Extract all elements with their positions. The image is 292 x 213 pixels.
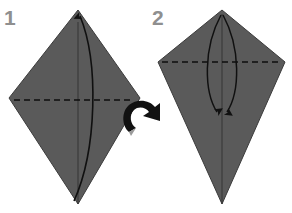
origami-instruction-figure: 1 2 [0,0,292,213]
step-1-group: 1 [4,6,140,204]
step-2-number: 2 [152,6,164,29]
step-2-group: 2 [152,6,285,204]
step-2-paper-kite [158,10,285,204]
figure-canvas: 1 2 [0,0,292,213]
rotate-arrow-shape [123,101,160,132]
rotate-arrow-icon [123,101,160,136]
step-1-number: 1 [4,6,16,29]
step-1-paper-kite [9,10,140,204]
